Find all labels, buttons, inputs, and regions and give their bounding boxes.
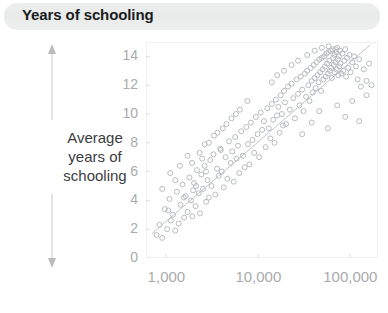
scatter-point [191, 188, 196, 193]
scatter-canvas [146, 42, 378, 258]
scatter-point [178, 202, 183, 207]
y-tick-label: 6 [110, 163, 138, 179]
scatter-point [287, 107, 292, 112]
scatter-point [369, 83, 374, 88]
scatter-point [273, 97, 278, 102]
scatter-point [336, 73, 341, 78]
scatter-point [308, 65, 313, 70]
scatter-point [206, 195, 211, 200]
scatter-point [252, 150, 257, 155]
scatter-point [348, 70, 353, 75]
scatter-point [231, 179, 236, 184]
scatter-point [174, 189, 179, 194]
x-tick-label: 10,000 [235, 268, 281, 285]
scatter-point [284, 122, 289, 127]
scatter-point [173, 178, 178, 183]
scatter-point [245, 142, 250, 147]
scatter-point [198, 211, 203, 216]
scatter-point [242, 165, 247, 170]
scatter-point [281, 88, 286, 93]
scatter-point [352, 54, 357, 59]
scatter-point [272, 140, 277, 145]
scatter-point [211, 152, 216, 157]
scatter-point [276, 104, 281, 109]
scatter-point [209, 184, 214, 189]
scatter-point [237, 107, 242, 112]
scatter-point [292, 116, 297, 121]
scatter-point [160, 186, 165, 191]
scatter-point [239, 129, 244, 134]
scatter-point [208, 158, 213, 163]
scatter-point [281, 68, 286, 73]
scatter-point [194, 168, 199, 173]
scatter-point [311, 63, 316, 68]
scatter-point [289, 81, 294, 86]
y-tick-label: 10 [110, 105, 138, 121]
scatter-point [309, 78, 314, 83]
scatter-point [244, 124, 249, 129]
scatter-point [343, 47, 348, 52]
scatter-point [268, 136, 273, 141]
scatter-point [168, 171, 173, 176]
scatter-point [326, 44, 331, 49]
scatter-point [199, 172, 204, 177]
scatter-point [271, 117, 276, 122]
y-tick-label: 12 [110, 76, 138, 92]
scatter-point [215, 166, 220, 171]
scatter-point [305, 52, 310, 57]
scatter-point [344, 74, 349, 79]
scatter-point [296, 91, 301, 96]
scatter-point [350, 99, 355, 104]
y-tick-label: 14 [110, 47, 138, 63]
scatter-point [213, 192, 218, 197]
scatter-point [266, 126, 271, 131]
scatter-point [185, 153, 190, 158]
scatter-point [240, 153, 245, 158]
scatter-point [247, 162, 252, 167]
scatter-point [343, 114, 348, 119]
scatter-point [171, 212, 176, 217]
scatter-point [176, 221, 181, 226]
scatter-point [265, 106, 270, 111]
scatter-point [224, 122, 229, 127]
scatter-point [160, 235, 165, 240]
scatter-point [225, 176, 230, 181]
scatter-point [367, 61, 372, 66]
scatter-point [205, 178, 210, 183]
scatter-point [223, 155, 228, 160]
scatter-point [301, 109, 306, 114]
y-axis-tick-labels: 02468101214 [106, 42, 138, 258]
scatter-plot [146, 42, 378, 258]
scatter-point [215, 130, 220, 135]
scatter-point [229, 116, 234, 121]
scatter-point [364, 93, 369, 98]
scatter-point [204, 169, 209, 174]
scatter-point [190, 214, 195, 219]
scatter-point [200, 156, 205, 161]
scatter-point [190, 160, 195, 165]
y-tick-label: 2 [110, 220, 138, 236]
scatter-point [316, 80, 321, 85]
scatter-point [269, 80, 274, 85]
scatter-point [283, 100, 288, 105]
scatter-point [185, 209, 190, 214]
scatter-point [357, 119, 362, 124]
scatter-point [165, 227, 170, 232]
scatter-point [300, 132, 305, 137]
scatter-point [358, 84, 363, 89]
scatter-point [154, 232, 159, 237]
scatter-point [325, 126, 330, 131]
scatter-point [319, 88, 324, 93]
x-tick-label: 100,000 [323, 268, 377, 285]
scatter-point [258, 110, 263, 115]
scatter-point [187, 175, 192, 180]
x-tick-label: 1,000 [148, 268, 186, 285]
scatter-point [200, 186, 205, 191]
page-title: Years of schooling [22, 6, 154, 23]
y-tick-label: 4 [110, 191, 138, 207]
y-tick-label: 8 [110, 134, 138, 150]
scatter-point [182, 215, 187, 220]
scatter-point [197, 150, 202, 155]
scatter-point [291, 96, 296, 101]
scatter-point [307, 99, 312, 104]
